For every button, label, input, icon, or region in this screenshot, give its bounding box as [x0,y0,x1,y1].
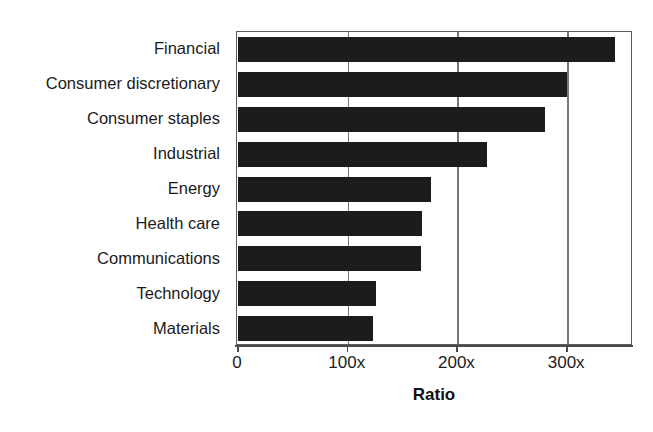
chart-title [0,0,653,5]
bar [238,281,376,306]
x-tick-mark [566,345,568,352]
category-label: Health care [0,215,228,232]
bar-chart: FinancialConsumer discretionaryConsumer … [0,0,653,432]
category-axis: FinancialConsumer discretionaryConsumer … [0,31,228,345]
plot-area [236,31,632,345]
x-tick-label: 300x [548,353,585,373]
category-label: Materials [0,320,228,337]
x-tick-label: 0 [232,353,241,373]
bar [238,107,545,132]
x-axis-line [235,345,633,347]
bar [238,211,422,236]
category-label: Consumer staples [0,110,228,127]
bar [238,316,373,341]
bar [238,142,487,167]
category-label: Consumer discretionary [0,75,228,92]
x-tick-label: 100x [328,353,365,373]
category-label: Energy [0,180,228,197]
x-tick-label: 200x [438,353,475,373]
bar [238,246,421,271]
x-tick-mark [237,345,239,352]
category-label: Industrial [0,145,228,162]
bar [238,72,567,97]
gridline-300x [567,32,568,344]
category-label: Financial [0,40,228,57]
x-tick-mark [456,345,458,352]
bar [238,177,431,202]
bar [238,37,615,62]
x-axis-title: Ratio [236,385,632,405]
x-tick-mark [347,345,349,352]
category-label: Technology [0,285,228,302]
category-label: Communications [0,250,228,267]
